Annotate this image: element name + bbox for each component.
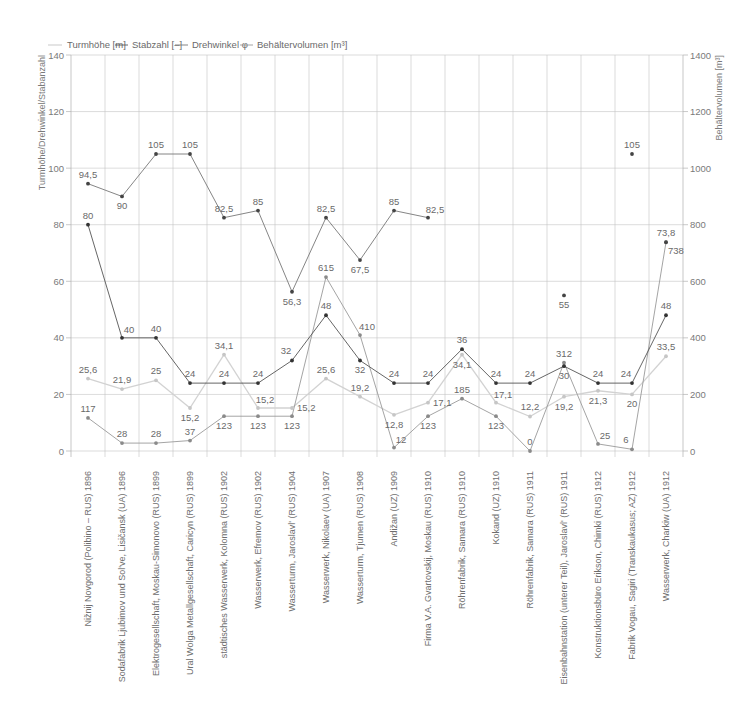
data-label-stabzahl: 24 (253, 368, 264, 379)
data-label-behaeltervolumen: 12 (396, 434, 407, 445)
data-point-drehwinkel (222, 216, 226, 220)
data-label-turmhoehe: 17,1 (433, 397, 452, 408)
data-point-turmhoehe (630, 393, 634, 397)
data-label-behaeltervolumen: 28 (151, 428, 162, 439)
data-label-behaeltervolumen: 117 (80, 403, 95, 414)
x-tick-label: Fabrik Vogau, Sagiri (Transkaukasus; AZ)… (627, 471, 637, 660)
data-label-drehwinkel: 55 (559, 299, 570, 310)
data-label-turmhoehe: 12,8 (385, 419, 404, 430)
data-point-stabzahl (290, 359, 294, 363)
data-point-stabzahl (528, 381, 532, 385)
data-label-stabzahl: 30 (559, 370, 570, 381)
data-point-turmhoehe (256, 406, 260, 410)
data-point-turmhoehe (358, 395, 362, 399)
legend-label-turmhoehe: Turmhöhe [m] (67, 39, 126, 50)
data-label-drehwinkel: 82,5 (215, 203, 234, 214)
data-label-drehwinkel: 73,8 (657, 227, 676, 238)
data-point-turmhoehe (86, 377, 90, 381)
data-point-turmhoehe (460, 353, 464, 357)
data-label-stabzahl: 24 (423, 368, 434, 379)
data-label-drehwinkel: 105 (624, 139, 640, 150)
data-label-drehwinkel: 94,5 (79, 169, 98, 180)
data-point-behaeltervolumen (290, 414, 294, 418)
data-label-turmhoehe: 21,9 (113, 374, 132, 385)
axes: 0204060801001201400200400600800100012001… (48, 50, 711, 457)
data-label-behaeltervolumen: 615 (318, 262, 334, 273)
data-label-stabzahl: 40 (151, 323, 162, 334)
legend-item-drehwinkel: Drehwinkel φ (175, 39, 248, 50)
data-point-drehwinkel (120, 195, 124, 199)
data-label-behaeltervolumen: 28 (117, 428, 128, 439)
data-point-stabzahl (256, 381, 260, 385)
data-point-stabzahl (120, 336, 124, 340)
y-tick-label-right: 0 (690, 446, 695, 457)
data-label-stabzahl: 32 (355, 364, 366, 375)
x-tick-label: Firma V.A. Gvartovskij, Moskau (RUS) 191… (423, 471, 433, 646)
data-label-drehwinkel: 105 (148, 139, 164, 150)
data-point-turmhoehe (596, 389, 600, 393)
data-point-stabzahl (86, 223, 90, 227)
x-tick-label: Ural Wolga Metallgesellschaft, Caricyn (… (185, 471, 195, 675)
data-point-stabzahl (426, 381, 430, 385)
data-label-turmhoehe: 20 (627, 398, 638, 409)
x-tick-label: Elektrogesellschaft, Moskau-Simonovo (RU… (151, 471, 161, 676)
data-point-behaeltervolumen (460, 397, 464, 401)
data-label-stabzahl: 24 (491, 368, 502, 379)
data-point-turmhoehe (562, 395, 566, 399)
data-point-stabzahl (324, 313, 328, 317)
data-point-behaeltervolumen (392, 446, 396, 450)
x-tick-label: Röhrenfabrik, Samara (RUS) 1910 (457, 471, 467, 609)
data-point-stabzahl (188, 381, 192, 385)
y-tick-label-left: 120 (48, 106, 64, 117)
data-label-turmhoehe: 25,6 (317, 364, 336, 375)
y-tick-label-right: 1000 (690, 163, 711, 174)
data-label-turmhoehe: 34,1 (453, 359, 472, 370)
data-point-stabzahl (358, 359, 362, 363)
data-point-behaeltervolumen (528, 449, 532, 453)
data-point-drehwinkel (188, 152, 192, 156)
data-point-drehwinkel (324, 216, 328, 220)
data-point-behaeltervolumen (154, 441, 158, 445)
y-tick-label-left: 60 (53, 276, 64, 287)
x-tick-label: Andižan (UZ) 1909 (389, 471, 399, 547)
data-label-turmhoehe: 34,1 (215, 340, 234, 351)
data-point-stabzahl (392, 381, 396, 385)
data-label-behaeltervolumen: 738 (668, 245, 684, 256)
y-tick-label-left: 0 (59, 446, 64, 457)
data-point-behaeltervolumen (120, 441, 124, 445)
y-tick-label-right: 800 (690, 219, 706, 230)
data-point-stabzahl (154, 336, 158, 340)
data-point-drehwinkel (562, 294, 566, 298)
data-label-behaeltervolumen: 6 (623, 434, 628, 445)
data-label-turmhoehe: 12,2 (521, 401, 540, 412)
y-tick-label-left: 80 (53, 219, 64, 230)
data-point-drehwinkel (358, 258, 362, 262)
data-label-drehwinkel: 82,5 (317, 203, 336, 214)
x-tick-label: Kokand (UZ) 1910 (491, 471, 501, 545)
data-point-drehwinkel (86, 182, 90, 186)
data-point-stabzahl (494, 381, 498, 385)
data-point-turmhoehe (494, 401, 498, 405)
data-label-behaeltervolumen: 185 (454, 384, 470, 395)
legend-item-turmhoehe: Turmhöhe [m] (48, 39, 126, 50)
data-label-stabzahl: 24 (593, 368, 604, 379)
data-point-turmhoehe (392, 413, 396, 417)
x-tick-label: städtisches Wasserwerk, Kolomna (RUS) 19… (219, 471, 229, 658)
data-label-turmhoehe: 15,2 (256, 394, 275, 405)
x-tick-label: Konstruktionsbüro Erikson, Chimki (RUS) … (593, 471, 603, 659)
data-label-behaeltervolumen: 123 (420, 420, 436, 431)
data-label-stabzahl: 24 (389, 368, 400, 379)
data-label-behaeltervolumen: 37 (185, 426, 196, 437)
data-point-turmhoehe (222, 353, 226, 357)
data-label-turmhoehe: 33,5 (657, 341, 676, 352)
data-label-behaeltervolumen: 123 (250, 420, 266, 431)
data-point-turmhoehe (664, 354, 668, 358)
data-point-drehwinkel (154, 152, 158, 156)
data-point-stabzahl (222, 381, 226, 385)
data-label-stabzahl: 24 (621, 368, 632, 379)
data-point-drehwinkel (392, 209, 396, 213)
x-tick-label: Wasserturm, Jaroslavl' (RUS) 1904 (287, 471, 297, 611)
data-point-behaeltervolumen (86, 416, 90, 420)
data-label-behaeltervolumen: 123 (488, 420, 504, 431)
data-point-drehwinkel (664, 240, 668, 244)
